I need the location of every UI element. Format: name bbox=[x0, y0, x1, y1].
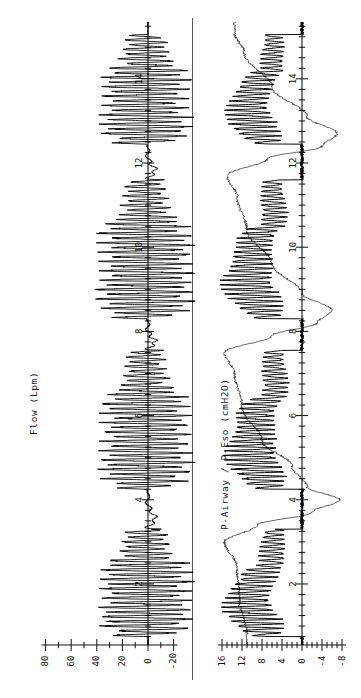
value-tick-label: -8 bbox=[337, 656, 347, 667]
flow-trace bbox=[95, 22, 195, 645]
time-tick-label: 2 bbox=[289, 581, 299, 586]
value-tick-label: 0 bbox=[143, 658, 153, 663]
value-tick-label: 12 bbox=[237, 656, 247, 667]
value-tick-label: -20 bbox=[168, 653, 178, 669]
panel-pressure: P-Airway / P-Eso (cmH2O) 2468101214-8-40… bbox=[193, 0, 361, 698]
value-tick-label: 40 bbox=[91, 656, 101, 667]
value-tick-label: 80 bbox=[40, 656, 50, 667]
figure-root: Flow (Lpm) 2468101214-20020406080 P-Airw… bbox=[0, 0, 361, 698]
flow-plot: 2468101214-20020406080 bbox=[0, 0, 193, 698]
time-tick-label: 12 bbox=[289, 158, 299, 169]
value-tick-label: 0 bbox=[297, 658, 307, 663]
value-tick-label: 8 bbox=[257, 658, 267, 663]
value-tick-label: 60 bbox=[66, 656, 76, 667]
value-tick-label: 16 bbox=[217, 656, 227, 667]
time-tick-label: 14 bbox=[289, 73, 299, 84]
panel-flow: Flow (Lpm) 2468101214-20020406080 bbox=[0, 0, 193, 698]
time-tick-label: 10 bbox=[289, 242, 299, 253]
time-tick-label: 4 bbox=[289, 497, 299, 502]
pressure-plot: 2468101214-8-40481216 bbox=[193, 0, 361, 698]
value-tick-label: 20 bbox=[117, 656, 127, 667]
time-tick-label: 2 bbox=[135, 581, 145, 586]
time-tick-label: 6 bbox=[289, 413, 299, 418]
time-tick-label: 12 bbox=[135, 158, 145, 169]
value-tick-label: -4 bbox=[317, 656, 327, 667]
time-tick-label: 8 bbox=[135, 329, 145, 334]
value-tick-label: 4 bbox=[277, 658, 287, 663]
time-tick-label: 4 bbox=[135, 497, 145, 502]
